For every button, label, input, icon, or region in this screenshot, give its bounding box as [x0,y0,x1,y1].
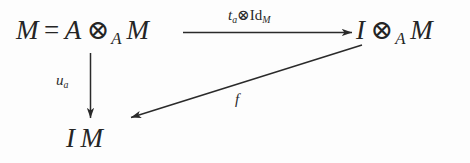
left-arrow-label-base: u [56,72,64,88]
node-target-second: M [405,15,433,45]
diagonal-arrow [131,45,362,118]
top-arrow-label-operator: Id [250,7,263,23]
node-bottom-first: I [66,123,76,153]
node-target-tensor-subscript: A [395,29,406,48]
node-source: M=A⊗AM [16,17,150,47]
node-source-lhs: M [16,15,39,45]
node-source-equals: = [39,15,65,45]
node-bottom-second: M [76,123,104,153]
node-source-first: A [65,15,82,45]
tensor-icon: ⊗ [82,15,111,45]
top-arrow-label: ta⊗IdM [228,8,270,25]
tensor-icon: ⊗ [366,15,395,45]
top-arrow-label-operator-subscript: M [262,14,270,25]
left-arrow-label: ua [56,73,68,90]
commutative-diagram: M=A⊗AM I⊗AM IM ta⊗IdM ua f [0,0,470,163]
node-target-first: I [356,15,366,45]
diagonal-arrow-label: f [235,92,239,107]
node-source-tensor-subscript: A [111,29,122,48]
node-target: I⊗AM [356,17,433,47]
tensor-icon: ⊗ [237,7,250,23]
node-bottom: IM [66,125,104,152]
left-arrow-label-subscript: a [64,79,69,90]
diagonal-arrow-label-base: f [235,91,239,107]
node-source-second: M [122,15,150,45]
